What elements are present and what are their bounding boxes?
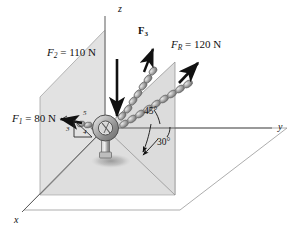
f2-magnitude: 110 — [69, 46, 85, 58]
axis-label-x: x — [14, 215, 18, 225]
f2-unit: N — [88, 46, 96, 58]
force-label-f1: F1 = 80 N — [12, 113, 56, 125]
fr-magnitude: 120 — [194, 38, 211, 50]
angle-label-30: 30° — [157, 138, 170, 148]
triangle-label-4: 4 — [83, 129, 87, 136]
axis-label-z: z — [118, 4, 122, 14]
triangle-label-3: 3 — [66, 126, 70, 133]
triangle-label-5: 5 — [83, 110, 87, 117]
axis-label-y: y — [278, 122, 282, 132]
f1-symbol: F — [12, 112, 19, 124]
angle-label-45: 45° — [144, 107, 157, 117]
f1-magnitude: 80 — [34, 112, 45, 124]
force-diagram-figure: z y x F1 = 80 N F2 = 110 N F3 FR = 120 N… — [0, 0, 301, 234]
fr-unit: N — [213, 38, 221, 50]
force-label-f2: F2 = 110 N — [47, 47, 96, 59]
f3-subscript: 3 — [144, 30, 148, 38]
f2-symbol: F — [47, 46, 54, 58]
arrow-fr — [179, 63, 198, 83]
f1-unit: N — [48, 112, 56, 124]
fr-symbol: F — [171, 38, 178, 50]
force-label-f3: F3 — [138, 26, 148, 38]
force-label-fr: FR = 120 N — [171, 39, 221, 51]
